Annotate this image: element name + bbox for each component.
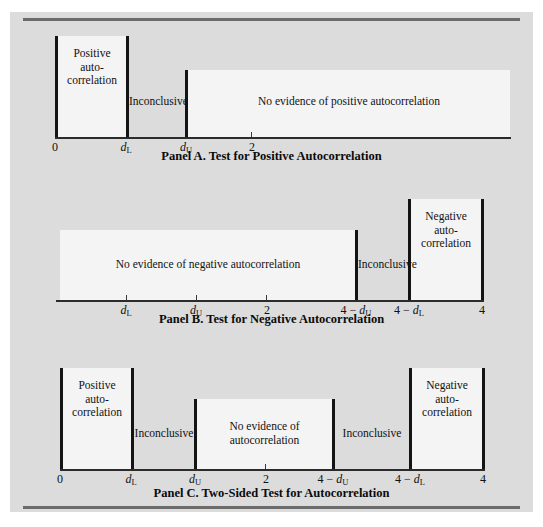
axis-tick-du bbox=[196, 295, 197, 300]
panel-a-caption: Panel A. Test for Positive Autocorrelati… bbox=[0, 149, 543, 164]
axis-label-2: 2 bbox=[256, 472, 276, 487]
figure-root: Positive auto- correlation Inconclusive … bbox=[0, 0, 543, 527]
panel-b: No evidence of negative autocorrelation … bbox=[0, 190, 543, 312]
bottom-rule bbox=[23, 506, 520, 509]
panel-c-axis bbox=[60, 469, 485, 471]
axis-tick-2 bbox=[266, 295, 267, 300]
panel-b-caption: Panel B. Test for Negative Autocorrelati… bbox=[0, 312, 543, 327]
region-label-no-evidence-positive: No evidence of positive autocorrelation bbox=[188, 95, 510, 109]
region-label-inconclusive-left: Inconclusive bbox=[134, 427, 194, 441]
axis-label-0: 0 bbox=[50, 472, 70, 487]
panel-a-axis bbox=[55, 137, 511, 139]
panel-c: Positive auto- correlation Inconclusive … bbox=[0, 358, 543, 486]
region-label-inconclusive-right: Inconclusive bbox=[335, 427, 409, 441]
axis-label-du: dU bbox=[180, 472, 210, 487]
axis-label-4-minus-dl: 4 − dL bbox=[379, 472, 441, 487]
axis-label-4-minus-du: 4 − dU bbox=[302, 472, 364, 487]
top-rule bbox=[23, 18, 520, 21]
panel-c-caption: Panel C. Two-Sided Test for Autocorrelat… bbox=[0, 486, 543, 501]
panel-a-plot: Positive auto- correlation Inconclusive … bbox=[0, 26, 543, 146]
axis-tick-2 bbox=[265, 464, 266, 469]
axis-label-dl: dL bbox=[116, 472, 146, 487]
region-label-negative-autocorrelation: Negative auto- correlation bbox=[411, 379, 483, 420]
panel-b-axis bbox=[56, 300, 484, 302]
region-label-no-evidence: No evidence of autocorrelation bbox=[196, 420, 333, 447]
region-label-inconclusive: Inconclusive bbox=[129, 95, 186, 109]
region-label-positive-autocorrelation: Positive auto- correlation bbox=[61, 379, 133, 420]
panel-a: Positive auto- correlation Inconclusive … bbox=[0, 26, 543, 146]
panel-c-plot: Positive auto- correlation Inconclusive … bbox=[0, 358, 543, 486]
region-label-positive-autocorrelation: Positive auto- correlation bbox=[56, 47, 128, 88]
region-label-inconclusive: Inconclusive bbox=[358, 258, 408, 272]
region-label-no-evidence-negative: No evidence of negative autocorrelation bbox=[60, 258, 356, 272]
axis-label-4: 4 bbox=[473, 472, 493, 487]
panel-b-plot: No evidence of negative autocorrelation … bbox=[0, 190, 543, 312]
axis-tick-2 bbox=[251, 132, 252, 137]
axis-tick-dl bbox=[126, 295, 127, 300]
region-label-negative-autocorrelation: Negative auto- correlation bbox=[410, 210, 482, 251]
